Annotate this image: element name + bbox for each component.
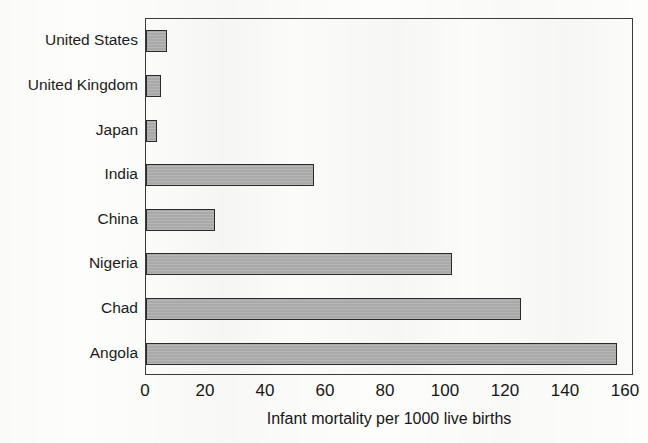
- plot-area: [145, 18, 633, 375]
- x-axis-title: Infant mortality per 1000 live births: [145, 410, 633, 428]
- bar: [146, 253, 452, 275]
- bar: [146, 30, 167, 52]
- y-axis-tick-label: Chad: [0, 300, 138, 316]
- x-axis-tick-label: 80: [376, 382, 395, 399]
- y-axis-tick-label: United Kingdom: [0, 77, 138, 93]
- y-axis-tick-label: Nigeria: [0, 255, 138, 271]
- x-axis-tick-label: 0: [140, 382, 149, 399]
- y-axis-tick-label: Japan: [0, 122, 138, 138]
- y-axis-category-labels: United StatesUnited KingdomJapanIndiaChi…: [0, 18, 138, 375]
- x-axis-tick-label: 140: [551, 382, 579, 399]
- x-axis-tick-label: 20: [196, 382, 215, 399]
- x-axis-tick-label: 120: [491, 382, 519, 399]
- y-axis-tick-label: India: [0, 166, 138, 182]
- chart-page: United StatesUnited KingdomJapanIndiaChi…: [0, 0, 648, 443]
- bar: [146, 164, 314, 186]
- plot-scan-shading: [146, 19, 632, 374]
- y-axis-tick-label: United States: [0, 32, 138, 48]
- y-axis-tick-label: China: [0, 211, 138, 227]
- bar: [146, 298, 521, 320]
- x-axis-tick-label: 60: [316, 382, 335, 399]
- x-axis-tick-label: 100: [431, 382, 459, 399]
- x-axis-tick-label: 160: [611, 382, 639, 399]
- bar: [146, 120, 157, 142]
- x-axis-tick-labels: 020406080100120140160: [0, 382, 648, 408]
- bar: [146, 343, 617, 365]
- y-axis-tick-label: Angola: [0, 345, 138, 361]
- x-axis-tick-label: 40: [256, 382, 275, 399]
- bar: [146, 75, 161, 97]
- bar: [146, 209, 215, 231]
